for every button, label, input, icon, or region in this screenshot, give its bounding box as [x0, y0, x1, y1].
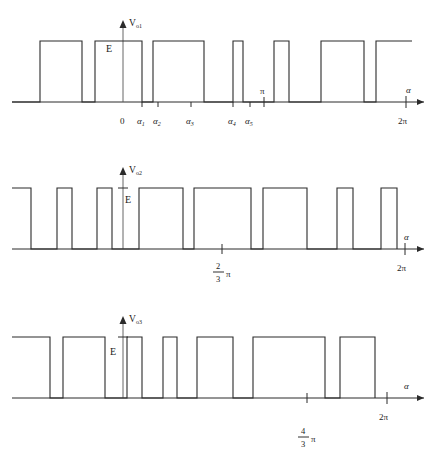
plot3-amplitude-label: E — [110, 346, 116, 357]
plot1-tick-label-a5: α5 — [245, 116, 253, 127]
plot3-y-arrow-icon — [120, 316, 127, 324]
plot-vo2: Vo2 E α 2 3 π 2π — [12, 165, 424, 284]
plot3-y-axis-label: Vo3 — [129, 314, 142, 325]
plot2-amplitude-label: E — [125, 194, 131, 205]
plot3-tick-label-mid: 4 3 π — [298, 426, 316, 449]
plot3-frac-denominator: 3 — [301, 439, 305, 449]
plot2-frac-numerator: 2 — [216, 261, 220, 271]
plot1-waveform — [12, 41, 412, 102]
plot2-waveform — [12, 188, 397, 249]
plot2-frac-denominator: 3 — [216, 274, 220, 284]
plot1-tick-label-2pi: 2π — [398, 116, 408, 126]
plot1-x-arrow-icon — [417, 99, 424, 105]
plot3-tick-label-2pi: 2π — [379, 412, 389, 422]
plot1-y-axis-label: Vo1 — [129, 18, 142, 29]
plot2-frac-suffix: π — [226, 269, 231, 279]
plot1-y-arrow-icon — [120, 20, 127, 28]
plot3-frac-numerator: 4 — [301, 426, 306, 436]
plot3-frac-suffix: π — [311, 434, 316, 444]
plot2-x-arrow-icon — [417, 246, 424, 252]
plot1-tick-label-a2: α2 — [153, 116, 161, 127]
plot3-waveform — [12, 337, 375, 398]
waveform-figure: Vo1 E α 0 α1 α2 α3 α4 α5 π 2π Vo2 E α — [0, 0, 437, 465]
plot1-tick-label-a4: α4 — [228, 116, 236, 127]
plot1-tick-label-pi: π — [260, 86, 265, 96]
plot2-x-axis-label: α — [404, 232, 409, 242]
plot3-x-arrow-icon — [417, 395, 424, 401]
plot2-tick-label-mid: 2 3 π — [213, 261, 231, 284]
plot1-x-axis-label: α — [406, 85, 411, 95]
plot1-amplitude-label: E — [106, 43, 112, 54]
plot1-tick-label-0: 0 — [120, 116, 125, 126]
plot-vo3: Vo3 E α 4 3 π 2π — [12, 314, 424, 449]
plot2-tick-label-2pi: 2π — [397, 263, 407, 273]
plot-vo1: Vo1 E α 0 α1 α2 α3 α4 α5 π 2π — [12, 18, 424, 127]
plot2-y-axis-label: Vo2 — [129, 165, 142, 176]
plot3-x-axis-label: α — [404, 381, 409, 391]
plot1-tick-label-a3: α3 — [186, 116, 194, 127]
plot1-tick-label-a1: α1 — [137, 116, 145, 127]
plot2-y-arrow-icon — [120, 167, 127, 175]
waveform-svg: Vo1 E α 0 α1 α2 α3 α4 α5 π 2π Vo2 E α — [0, 0, 437, 465]
